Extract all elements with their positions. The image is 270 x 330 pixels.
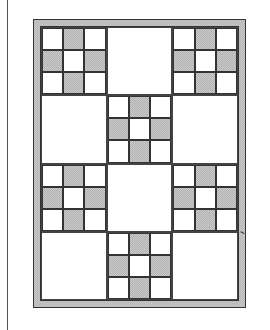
plain-block bbox=[41, 232, 107, 300]
shaded-patch bbox=[173, 187, 194, 209]
white-patch bbox=[216, 28, 237, 50]
plain-block bbox=[41, 95, 107, 163]
white-patch bbox=[42, 209, 63, 231]
white-patch bbox=[63, 187, 84, 209]
shaded-patch bbox=[150, 118, 171, 140]
nine-patch-grid bbox=[173, 165, 237, 231]
white-patch bbox=[108, 233, 129, 255]
shaded-patch bbox=[216, 187, 237, 209]
plain-block bbox=[172, 95, 238, 163]
shaded-patch bbox=[84, 187, 105, 209]
shaded-patch bbox=[173, 50, 194, 72]
white-patch bbox=[84, 28, 105, 50]
nine-patch-block bbox=[41, 27, 107, 95]
nine-patch-block bbox=[107, 95, 173, 163]
white-patch bbox=[150, 140, 171, 162]
white-patch bbox=[216, 209, 237, 231]
white-patch bbox=[84, 209, 105, 231]
plain-block bbox=[107, 27, 173, 95]
white-patch bbox=[216, 165, 237, 187]
white-patch bbox=[150, 96, 171, 118]
nine-patch-grid bbox=[108, 233, 172, 299]
plain-block bbox=[107, 164, 173, 232]
shaded-patch bbox=[129, 233, 150, 255]
plain-block bbox=[172, 232, 238, 300]
shaded-patch bbox=[63, 209, 84, 231]
shaded-patch bbox=[129, 277, 150, 299]
white-patch bbox=[195, 50, 216, 72]
shaded-patch bbox=[108, 118, 129, 140]
nine-patch-grid bbox=[173, 28, 237, 94]
nine-patch-block bbox=[172, 164, 238, 232]
white-patch bbox=[42, 28, 63, 50]
shaded-patch bbox=[108, 255, 129, 277]
white-patch bbox=[108, 96, 129, 118]
white-patch bbox=[42, 165, 63, 187]
shaded-patch bbox=[195, 72, 216, 94]
nine-patch-block bbox=[172, 27, 238, 95]
shaded-patch bbox=[129, 140, 150, 162]
shaded-patch bbox=[150, 255, 171, 277]
white-patch bbox=[195, 187, 216, 209]
white-patch bbox=[63, 50, 84, 72]
white-patch bbox=[150, 277, 171, 299]
white-patch bbox=[173, 28, 194, 50]
nine-patch-grid bbox=[108, 96, 172, 162]
nine-patch-block bbox=[41, 164, 107, 232]
white-patch bbox=[129, 118, 150, 140]
white-patch bbox=[129, 255, 150, 277]
shaded-patch bbox=[42, 187, 63, 209]
quilt-border bbox=[33, 19, 246, 308]
shaded-patch bbox=[195, 209, 216, 231]
shaded-patch bbox=[216, 50, 237, 72]
shaded-patch bbox=[63, 28, 84, 50]
white-patch bbox=[108, 277, 129, 299]
shaded-patch bbox=[129, 96, 150, 118]
white-patch bbox=[108, 140, 129, 162]
nine-patch-block bbox=[107, 232, 173, 300]
white-patch bbox=[173, 165, 194, 187]
nine-patch-grid bbox=[42, 28, 106, 94]
shaded-patch bbox=[195, 28, 216, 50]
quilt-field bbox=[40, 26, 239, 301]
white-patch bbox=[84, 72, 105, 94]
shaded-patch bbox=[42, 50, 63, 72]
white-patch bbox=[173, 72, 194, 94]
shaded-patch bbox=[63, 72, 84, 94]
shaded-patch bbox=[63, 165, 84, 187]
shaded-patch bbox=[84, 50, 105, 72]
page-margin-line bbox=[7, 0, 8, 330]
white-patch bbox=[173, 209, 194, 231]
white-patch bbox=[42, 72, 63, 94]
nine-patch-grid bbox=[42, 165, 106, 231]
white-patch bbox=[150, 233, 171, 255]
white-patch bbox=[84, 165, 105, 187]
white-patch bbox=[216, 72, 237, 94]
shaded-patch bbox=[195, 165, 216, 187]
